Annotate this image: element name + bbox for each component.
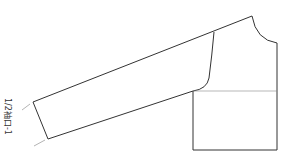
neckline-curve (252, 16, 277, 43)
dimension-mark (22, 104, 45, 146)
sleeve-top-edge (33, 16, 252, 102)
sleeve-bottom-edge (48, 32, 214, 139)
sleeve-cuff-edge (33, 102, 48, 139)
sleeve-bodice-pattern (0, 0, 292, 160)
cuff-dimension-label: 1/2袖口-1 (3, 98, 14, 135)
bodice-outline (193, 43, 277, 150)
